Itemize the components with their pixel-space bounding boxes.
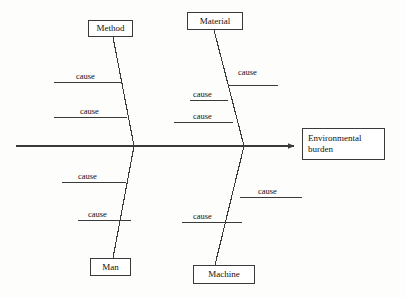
cause-label-method-2: cause bbox=[80, 106, 99, 116]
bone-material bbox=[214, 30, 244, 146]
category-label-man: Man bbox=[102, 262, 119, 273]
cause-lines-group bbox=[54, 82, 302, 222]
cause-label-method-1: cause bbox=[76, 71, 95, 81]
bone-man bbox=[113, 146, 134, 258]
effect-label: Environmental burden bbox=[308, 133, 362, 155]
cause-label-man-2: cause bbox=[88, 209, 107, 219]
cause-label-machine-2: cause bbox=[193, 211, 212, 221]
category-bones-group bbox=[113, 30, 244, 265]
category-label-machine: Machine bbox=[208, 269, 240, 280]
bone-method bbox=[113, 37, 134, 146]
category-label-method: Method bbox=[97, 23, 125, 34]
effect-label-line1: Environmental bbox=[308, 133, 362, 143]
category-box-material[interactable]: Material bbox=[187, 12, 243, 30]
fishbone-diagram: Method Material Man Machine Environmenta… bbox=[0, 0, 405, 298]
cause-label-material-3: cause bbox=[193, 111, 212, 121]
cause-label-material-1: cause bbox=[238, 67, 257, 77]
category-box-machine[interactable]: Machine bbox=[193, 265, 255, 284]
cause-label-machine-1: cause bbox=[258, 186, 277, 196]
bone-machine bbox=[215, 146, 244, 265]
category-label-material: Material bbox=[200, 16, 231, 27]
cause-label-material-2: cause bbox=[193, 89, 212, 99]
category-box-method[interactable]: Method bbox=[88, 20, 133, 37]
effect-box-environmental-burden[interactable]: Environmental burden bbox=[302, 128, 385, 160]
category-box-man[interactable]: Man bbox=[90, 258, 131, 276]
cause-label-man-1: cause bbox=[78, 171, 97, 181]
effect-label-line2: burden bbox=[308, 144, 333, 154]
